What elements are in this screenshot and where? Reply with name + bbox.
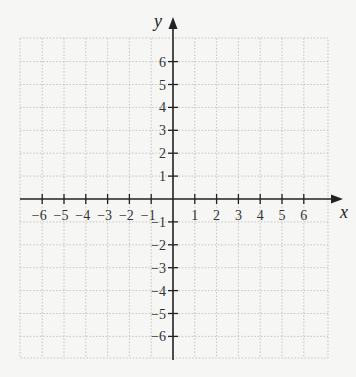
y-tick-label: −5 <box>151 307 166 322</box>
x-tick-label: −5 <box>54 208 69 223</box>
axes <box>20 17 343 360</box>
x-tick-label: −2 <box>119 208 134 223</box>
x-tick-label: 5 <box>279 208 286 223</box>
x-axis-label: x <box>339 202 348 222</box>
y-tick-label: −4 <box>151 284 166 299</box>
y-tick-label: 2 <box>159 146 166 161</box>
y-tick-label: −3 <box>151 261 166 276</box>
x-tick-label: 6 <box>300 208 307 223</box>
y-tick-label: 6 <box>159 55 166 70</box>
x-tick-label: 2 <box>213 208 220 223</box>
x-tick-label: −6 <box>32 208 47 223</box>
x-tick-label: 3 <box>235 208 242 223</box>
y-tick-label: −6 <box>151 329 166 344</box>
y-tick-label: 1 <box>159 169 166 184</box>
x-tick-label: −3 <box>97 208 112 223</box>
x-tick-label: −4 <box>75 208 90 223</box>
y-tick-label: 5 <box>159 78 166 93</box>
x-tick-label: 1 <box>191 208 198 223</box>
x-tick-label: 4 <box>257 208 264 223</box>
y-tick-label: −2 <box>151 238 166 253</box>
coordinate-plane: −6−5−4−3−2−1123456 654321−1−2−3−4−5−6 x … <box>0 0 356 377</box>
y-tick-label: −1 <box>151 215 166 230</box>
y-axis-arrow-icon <box>169 17 178 29</box>
y-tick-label: 4 <box>159 100 166 115</box>
y-tick-label: 3 <box>159 123 166 138</box>
y-axis-label: y <box>152 11 162 31</box>
